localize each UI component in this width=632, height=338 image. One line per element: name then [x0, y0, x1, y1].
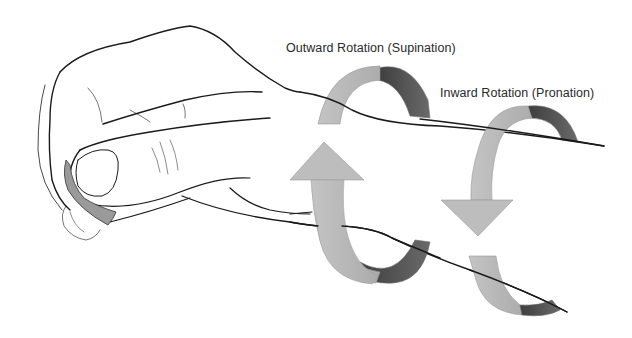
supination-arrow-icon — [290, 142, 430, 284]
rotation-diagram: Outward Rotation (Supination) Inward Rot… — [0, 0, 632, 338]
pronation-label: Inward Rotation (Pronation) — [440, 86, 594, 100]
pronation-band-top — [528, 106, 578, 142]
supination-band-top — [318, 66, 430, 124]
supination-label: Outward Rotation (Supination) — [286, 41, 456, 55]
